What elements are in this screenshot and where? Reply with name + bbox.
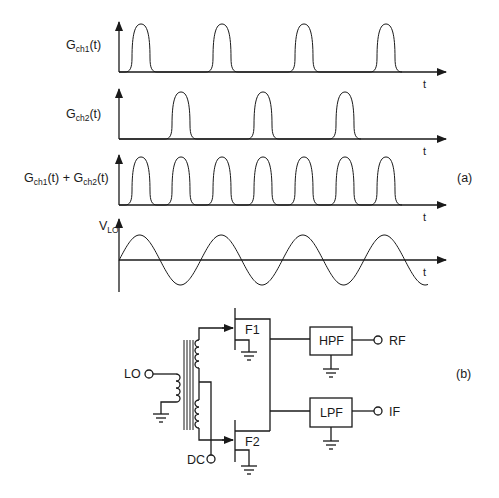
lpf-block: LPF [310, 398, 352, 449]
f1-label: F1 [245, 323, 260, 337]
t-axis-label: t [423, 145, 426, 157]
if-port-label: IF [389, 405, 400, 419]
dc-port-terminal [207, 455, 215, 463]
t-axis-label: t [423, 211, 426, 223]
if-port-terminal [374, 407, 382, 415]
pulse-train-gch1 [119, 24, 402, 72]
gch2-label: Gch2(t) [66, 107, 101, 123]
rf-port-label: RF [389, 334, 406, 348]
lo-port-terminal [145, 370, 153, 378]
vlo-label: VLO [99, 219, 119, 235]
waveform-gch2: Gch2(t) t [66, 89, 446, 157]
lpf-label: LPF [320, 406, 343, 420]
pulse-train-gsum [119, 157, 402, 205]
waveform-gch1: Gch1(t) t [66, 22, 446, 90]
waveform-gsum: Gch1(t) + Gch2(t) t [24, 155, 446, 223]
dc-port-label: DC [187, 453, 205, 467]
panel-b-label: (b) [456, 367, 471, 381]
mixer-circuit: LO DC [124, 308, 406, 474]
panel-a-label: (a) [457, 171, 472, 185]
mixer-figure: Gch1(t) t Gch2(t) t Gch1(t) + Gch2(t) t … [0, 0, 499, 498]
transformer-core-icon [184, 340, 193, 430]
f2-label: F2 [245, 435, 260, 449]
t-axis-label: t [423, 266, 426, 278]
t-axis-label: t [423, 78, 426, 90]
gch1-label: Gch1(t) [66, 38, 101, 54]
rf-port-terminal [374, 336, 382, 344]
ground-icon [153, 414, 169, 422]
transistor-f2: F2 [222, 420, 270, 474]
secondary-coil-lower-icon [195, 400, 199, 428]
transistor-f1: F1 [222, 308, 270, 431]
hpf-label: HPF [319, 334, 344, 348]
lo-port-label: LO [124, 367, 141, 381]
waveform-vlo: VLO t [99, 219, 446, 292]
hpf-block: HPF [310, 327, 352, 377]
gsum-label: Gch1(t) + Gch2(t) [24, 171, 109, 187]
pulse-train-gch2 [119, 92, 361, 139]
primary-coil-icon [176, 374, 180, 402]
secondary-coil-upper-icon [195, 340, 199, 368]
